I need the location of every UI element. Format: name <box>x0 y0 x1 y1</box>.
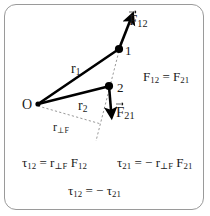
tau21-force-sub: 21 <box>184 161 193 171</box>
F12-vector-glyph: F <box>129 13 137 28</box>
tau12-lhs-sub: 12 <box>27 161 36 171</box>
origin-point-dot <box>35 101 40 106</box>
taurel-lhs-sub: 12 <box>73 189 82 199</box>
position-vector-r2-label: r2 <box>78 99 88 115</box>
rperp-subscript: ⊥F <box>57 126 69 135</box>
equation-torque-relation: τ12 = − τ21 <box>68 184 121 199</box>
origin-label: O <box>22 98 32 112</box>
r2-subscript: 2 <box>83 104 88 114</box>
force-eq-rhs-sub: 21 <box>180 75 189 85</box>
tau12-arm-sub: ⊥F <box>54 161 67 171</box>
tau21-force-base: F <box>176 155 183 170</box>
tau12-force-sub: 12 <box>78 161 87 171</box>
F12-subscript: 12 <box>137 18 147 29</box>
taurel-sign: − <box>96 183 103 198</box>
figure-canvas: F12 1 2 O r1 r2 r⊥F F21 F12 = F21 τ12 <box>0 0 210 216</box>
tau21-arm-sub: ⊥F <box>160 161 173 171</box>
equation-torque-12: τ12 = r⊥F F12 <box>22 156 87 171</box>
tau21-operator: = <box>135 155 142 170</box>
taurel-operator: = <box>86 183 93 198</box>
force-eq-operator: = <box>163 69 170 84</box>
r1-subscript: 1 <box>76 67 81 77</box>
force-vector-F21-label: F21 <box>116 105 135 121</box>
point-2-label: 2 <box>117 81 124 94</box>
force-eq-lhs-sub: 12 <box>150 75 159 85</box>
position-vector-r1-label: r1 <box>71 62 81 78</box>
taurel-rhs-sub: 21 <box>112 189 121 199</box>
point-1-label: 1 <box>125 44 132 57</box>
moment-arm-label: r⊥F <box>53 121 69 135</box>
tau12-force-base: F <box>71 155 78 170</box>
equation-torque-21: τ21 = − r⊥F F21 <box>117 156 193 171</box>
moment-arm-dashed <box>38 106 101 124</box>
F12-base: F <box>129 12 137 28</box>
force-vector-F12-label: F12 <box>129 13 148 29</box>
tau21-sign: − <box>145 155 152 170</box>
F21-subscript: 21 <box>124 110 134 121</box>
F21-vector-glyph: F <box>116 105 124 120</box>
tau21-lhs-sub: 21 <box>122 161 131 171</box>
equation-force-equality: F12 = F21 <box>143 70 189 85</box>
tau12-operator: = <box>40 155 47 170</box>
F21-base: F <box>116 104 124 120</box>
